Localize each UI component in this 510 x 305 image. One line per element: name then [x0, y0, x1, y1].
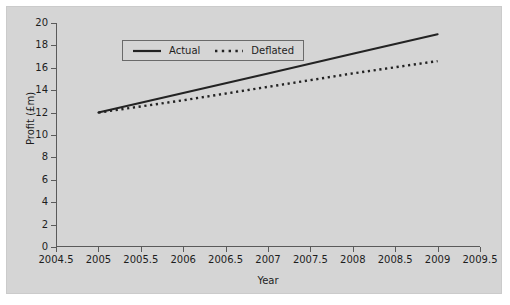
legend-label-actual: Actual	[169, 45, 200, 56]
y-tick-label: 14	[35, 85, 48, 95]
y-tick-label: 16	[35, 63, 48, 73]
x-tick-mark	[395, 247, 396, 252]
x-tick-label: 2006.5	[208, 255, 243, 265]
x-tick-label: 2008	[340, 255, 365, 265]
x-tick-mark	[56, 247, 57, 252]
y-tick-label: 8	[42, 152, 48, 162]
legend-label-deflated: Deflated	[251, 45, 294, 56]
x-tick-mark	[310, 247, 311, 252]
x-tick-mark	[141, 247, 142, 252]
x-tick-mark	[183, 247, 184, 252]
x-tick-label: 2009.5	[463, 255, 498, 265]
legend-swatch-dotted-icon	[214, 46, 244, 56]
x-axis-title: Year	[56, 275, 480, 286]
x-tick-mark	[438, 247, 439, 252]
x-tick-mark	[480, 247, 481, 252]
chart-legend: Actual Deflated	[122, 40, 304, 61]
x-tick-mark	[268, 247, 269, 252]
plot-area: 02468101214161820 2004.520052005.5200620…	[56, 23, 480, 247]
x-tick-label: 2006	[170, 255, 195, 265]
y-tick-label: 18	[35, 40, 48, 50]
x-tick-label: 2005	[86, 255, 111, 265]
y-tick-label: 12	[35, 108, 48, 118]
legend-entry-actual: Actual	[132, 45, 200, 56]
y-tick-label: 4	[42, 197, 48, 207]
x-tick-mark	[353, 247, 354, 252]
x-tick-label: 2007	[255, 255, 280, 265]
x-tick-label: 2005.5	[123, 255, 158, 265]
legend-swatch-solid-icon	[132, 46, 162, 56]
x-tick-label: 2007.5	[293, 255, 328, 265]
chart-figure: 02468101214161820 2004.520052005.5200620…	[6, 6, 502, 294]
x-tick-label: 2004.5	[39, 255, 74, 265]
x-tick-mark	[98, 247, 99, 252]
x-tick-mark	[226, 247, 227, 252]
y-tick-label: 10	[35, 130, 48, 140]
y-tick-label: 6	[42, 175, 48, 185]
x-tick-label: 2008.5	[378, 255, 413, 265]
series-line-deflated	[98, 61, 437, 113]
x-tick-label: 2009	[425, 255, 450, 265]
y-tick-label: 20	[35, 18, 48, 28]
legend-entry-deflated: Deflated	[214, 45, 294, 56]
y-tick-label: 2	[42, 220, 48, 230]
y-tick-label: 0	[42, 242, 48, 252]
y-axis-title: Profit (£m)	[25, 49, 36, 189]
